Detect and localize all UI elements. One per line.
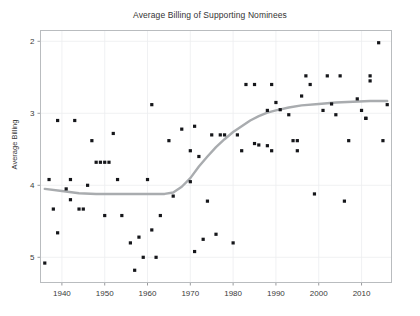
x-tick-label: 1990	[267, 289, 285, 298]
data-point	[253, 142, 256, 145]
data-point	[330, 102, 333, 105]
data-point	[257, 143, 260, 146]
data-point	[159, 214, 162, 217]
x-tick-label: 1970	[181, 289, 199, 298]
data-point	[43, 261, 46, 264]
data-point	[112, 132, 115, 135]
data-point	[69, 198, 72, 201]
data-point	[150, 228, 153, 231]
data-point	[116, 178, 119, 181]
scatter-plot: 19401950196019701980199020002010 2345	[0, 0, 420, 316]
data-point	[274, 101, 277, 104]
data-point	[253, 83, 256, 86]
data-point	[321, 109, 324, 112]
data-point	[107, 161, 110, 164]
data-point	[360, 109, 363, 112]
data-point	[193, 250, 196, 253]
data-point	[304, 74, 307, 77]
x-tick-label: 1940	[53, 289, 71, 298]
data-point	[146, 178, 149, 181]
data-point	[56, 119, 59, 122]
data-point	[270, 149, 273, 152]
y-tick-label: 5	[30, 253, 35, 262]
data-point	[240, 149, 243, 152]
y-tick-label: 2	[30, 37, 35, 46]
data-point	[214, 233, 217, 236]
data-point	[300, 94, 303, 97]
data-point	[287, 113, 290, 116]
data-point	[386, 103, 389, 106]
data-point	[197, 155, 200, 158]
data-point	[356, 97, 359, 100]
data-point	[296, 149, 299, 152]
data-point	[223, 133, 226, 136]
data-point	[90, 139, 93, 142]
data-point	[154, 256, 157, 259]
data-point	[167, 139, 170, 142]
data-point	[193, 125, 196, 128]
data-point	[313, 192, 316, 195]
data-point	[150, 103, 153, 106]
data-point	[334, 113, 337, 116]
data-point	[120, 214, 123, 217]
x-axis-tick-labels: 19401950196019701980199020002010	[53, 289, 371, 298]
data-point	[326, 74, 329, 77]
data-point	[206, 200, 209, 203]
plot-frame	[41, 31, 392, 283]
data-point	[52, 207, 55, 210]
data-point	[189, 180, 192, 183]
data-point	[296, 139, 299, 142]
y-tick-label: 4	[30, 181, 35, 190]
data-points	[43, 41, 389, 272]
data-point	[69, 178, 72, 181]
data-point	[180, 128, 183, 131]
data-point	[369, 79, 372, 82]
data-point	[377, 41, 380, 44]
data-point	[82, 207, 85, 210]
data-point	[347, 139, 350, 142]
x-tick-label: 2010	[353, 289, 371, 298]
data-point	[236, 133, 239, 136]
data-point	[103, 214, 106, 217]
y-tick-label: 3	[30, 109, 35, 118]
gridlines	[41, 31, 392, 283]
data-point	[189, 149, 192, 152]
x-tick-label: 2000	[310, 289, 328, 298]
data-point	[77, 207, 80, 210]
data-point	[202, 238, 205, 241]
x-tick-label: 1950	[96, 289, 114, 298]
data-point	[142, 256, 145, 259]
data-point	[266, 109, 269, 112]
data-point	[219, 133, 222, 136]
data-point	[86, 184, 89, 187]
data-point	[73, 119, 76, 122]
data-point	[137, 236, 140, 239]
data-point	[129, 241, 132, 244]
data-point	[291, 139, 294, 142]
y-axis-tick-labels: 2345	[30, 37, 35, 262]
x-tick-label: 1960	[139, 289, 157, 298]
data-point	[172, 195, 175, 198]
data-point	[210, 133, 213, 136]
data-point	[47, 178, 50, 181]
data-point	[232, 241, 235, 244]
data-point	[339, 74, 342, 77]
data-point	[364, 117, 367, 120]
data-point	[133, 269, 136, 272]
chart-figure: Average Billing of Supporting Nominees A…	[0, 0, 420, 316]
data-point	[270, 83, 273, 86]
data-point	[244, 83, 247, 86]
data-point	[65, 187, 68, 190]
data-point	[99, 161, 102, 164]
data-point	[103, 161, 106, 164]
data-point	[266, 144, 269, 147]
data-point	[56, 231, 59, 234]
data-point	[369, 74, 372, 77]
data-point	[343, 200, 346, 203]
data-point	[95, 161, 98, 164]
axis-ticks	[38, 41, 362, 285]
x-tick-label: 1980	[224, 289, 242, 298]
data-point	[309, 83, 312, 86]
data-point	[279, 108, 282, 111]
data-point	[381, 139, 384, 142]
